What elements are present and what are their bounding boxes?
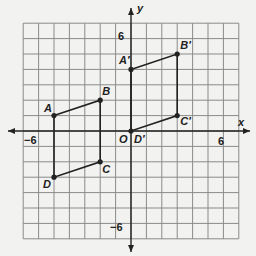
vertex-point [98, 98, 103, 103]
graph-canvas: x y O −6 6 6 −6 ABCDA′B′C′D′ [0, 0, 256, 256]
y-axis-up-arrow-icon [128, 8, 134, 15]
x-axis-left-arrow-icon [8, 128, 15, 134]
x-tick-neg-6: −6 [24, 134, 37, 146]
vertex-point [175, 51, 180, 56]
y-tick-neg-6: −6 [110, 221, 123, 233]
axes: x y O −6 6 6 −6 [8, 2, 250, 252]
coordinate-plane: x y O −6 6 6 −6 ABCDA′B′C′D′ [0, 0, 256, 256]
vertex-point [51, 113, 56, 118]
vertex-point [51, 175, 56, 180]
vertex-label: A [43, 102, 52, 114]
figures: ABCDA′B′C′D′ [43, 39, 192, 190]
vertex-point [128, 128, 133, 133]
y-axis-down-arrow-icon [128, 245, 134, 252]
vertex-point [128, 67, 133, 72]
vertex-label: A′ [118, 54, 131, 66]
vertex-label: B [102, 85, 110, 97]
x-tick-pos-6: 6 [218, 135, 224, 147]
y-axis-label: y [136, 2, 144, 14]
x-axis-right-arrow-icon [243, 128, 250, 134]
y-tick-pos-6: 6 [118, 30, 124, 42]
quadrilateral-A'B'C'D' [131, 54, 177, 131]
vertex-point [175, 113, 180, 118]
vertex-label: C [102, 163, 111, 175]
x-axis-label: x [237, 116, 245, 128]
quadrilateral-ABCD [54, 100, 100, 177]
origin-label: O [119, 133, 128, 145]
vertex-label: C′ [180, 115, 192, 127]
vertex-label: B′ [180, 39, 192, 51]
vertex-label: D [43, 178, 51, 190]
vertex-label: D′ [134, 133, 146, 145]
